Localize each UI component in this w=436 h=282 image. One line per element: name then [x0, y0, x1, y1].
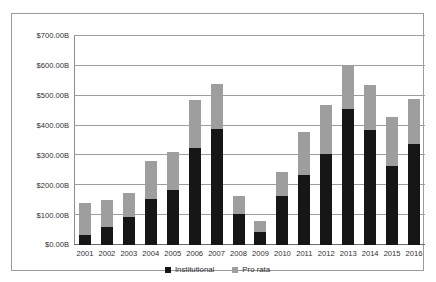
bar-slot: 2006 — [184, 36, 206, 245]
stacked-bar[interactable] — [342, 66, 354, 245]
bar-slot: 2009 — [250, 36, 272, 245]
x-axis-tick-label: 2006 — [186, 250, 203, 258]
bar-segment-pro-rata[interactable] — [101, 200, 113, 227]
bar-segment-pro-rata[interactable] — [298, 132, 310, 175]
bar-slot: 2011 — [293, 36, 315, 245]
stacked-bar[interactable] — [233, 196, 245, 245]
bar-slot: 2013 — [337, 36, 359, 245]
x-axis-tick-label: 2005 — [164, 250, 181, 258]
bar-group: 2001200220032004200520062007200820092010… — [74, 36, 425, 245]
bar-segment-institutional[interactable] — [276, 196, 288, 245]
bar-segment-pro-rata[interactable] — [276, 172, 288, 196]
bar-segment-institutional[interactable] — [211, 129, 223, 245]
legend-item-label: Institutional — [175, 265, 214, 274]
bar-segment-pro-rata[interactable] — [408, 99, 420, 144]
x-axis-tick-label: 2001 — [77, 250, 94, 258]
bar-slot: 2001 — [74, 36, 96, 245]
stacked-bar[interactable] — [145, 161, 157, 245]
bar-segment-pro-rata[interactable] — [233, 196, 245, 214]
stacked-bar[interactable] — [320, 105, 332, 245]
stacked-bar[interactable] — [79, 203, 91, 245]
legend-item[interactable]: Pro rata — [232, 265, 270, 274]
bar-segment-institutional[interactable] — [123, 217, 135, 245]
bar-slot: 2015 — [381, 36, 403, 245]
bar-segment-pro-rata[interactable] — [386, 117, 398, 166]
x-axis-tick-label: 2002 — [98, 250, 115, 258]
x-axis-tick-label: 2008 — [230, 250, 247, 258]
plot-area: $0.00B$100.00B$200.00B$300.00B$400.00B$5… — [74, 36, 425, 245]
y-axis-tick-label: $700.00B — [36, 32, 69, 40]
stacked-bar[interactable] — [211, 84, 223, 245]
bar-slot: 2007 — [206, 36, 228, 245]
x-axis-tick-label: 2016 — [406, 250, 423, 258]
bar-segment-pro-rata[interactable] — [79, 203, 91, 234]
x-axis-tick-label: 2014 — [362, 250, 379, 258]
chart-legend: InstitutionalPro rata — [12, 265, 423, 274]
stacked-bar[interactable] — [123, 193, 135, 245]
bar-segment-institutional[interactable] — [320, 154, 332, 245]
bar-segment-institutional[interactable] — [342, 109, 354, 245]
stacked-bar[interactable] — [298, 132, 310, 245]
bar-slot: 2008 — [228, 36, 250, 245]
bar-segment-pro-rata[interactable] — [364, 85, 376, 130]
x-axis-tick-label: 2011 — [296, 250, 312, 258]
y-axis-tick-label: $400.00B — [36, 122, 69, 130]
bar-segment-institutional[interactable] — [386, 166, 398, 245]
stacked-bar[interactable] — [101, 200, 113, 245]
bar-slot: 2005 — [162, 36, 184, 245]
stacked-bar[interactable] — [364, 85, 376, 245]
bar-slot: 2014 — [359, 36, 381, 245]
bar-segment-pro-rata[interactable] — [211, 84, 223, 129]
stacked-bar[interactable] — [254, 221, 266, 245]
x-axis-tick-label: 2003 — [120, 250, 137, 258]
bar-segment-institutional[interactable] — [298, 175, 310, 245]
y-axis-tick-label: $200.00B — [36, 182, 69, 190]
square-swatch-icon — [232, 267, 238, 273]
square-swatch-icon — [165, 267, 171, 273]
stacked-bar[interactable] — [408, 99, 420, 245]
x-axis-tick-label: 2013 — [340, 250, 357, 258]
stacked-bar[interactable] — [276, 172, 288, 245]
stacked-bar[interactable] — [167, 152, 179, 245]
x-axis-tick-label: 2009 — [252, 250, 269, 258]
bar-segment-institutional[interactable] — [364, 130, 376, 245]
bar-segment-pro-rata[interactable] — [189, 100, 201, 148]
bar-segment-pro-rata[interactable] — [167, 152, 179, 189]
bar-slot: 2003 — [118, 36, 140, 245]
bar-slot: 2004 — [140, 36, 162, 245]
bar-segment-institutional[interactable] — [79, 235, 91, 245]
bar-slot: 2016 — [403, 36, 425, 245]
bar-segment-pro-rata[interactable] — [123, 193, 135, 217]
y-axis-tick-label: $500.00B — [36, 92, 69, 100]
bar-segment-institutional[interactable] — [408, 144, 420, 246]
x-axis-tick-label: 2007 — [208, 250, 225, 258]
bar-segment-institutional[interactable] — [254, 232, 266, 245]
x-axis-tick-label: 2015 — [384, 250, 401, 258]
bar-segment-pro-rata[interactable] — [254, 221, 266, 231]
y-axis-tick-label: $600.00B — [36, 62, 69, 70]
bar-segment-pro-rata[interactable] — [342, 66, 354, 109]
bar-segment-pro-rata[interactable] — [145, 161, 157, 198]
x-axis-tick-label: 2012 — [318, 250, 335, 258]
y-axis-tick-label: $0.00B — [45, 241, 69, 249]
chart-frame: $0.00B$100.00B$200.00B$300.00B$400.00B$5… — [11, 13, 424, 271]
bar-slot: 2012 — [315, 36, 337, 245]
y-axis-tick-label: $100.00B — [36, 211, 69, 219]
bar-slot: 2002 — [96, 36, 118, 245]
legend-item[interactable]: Institutional — [165, 265, 214, 274]
bar-segment-institutional[interactable] — [233, 214, 245, 245]
stacked-bar[interactable] — [189, 100, 201, 245]
bar-segment-institutional[interactable] — [167, 190, 179, 245]
bar-slot: 2010 — [271, 36, 293, 245]
stacked-bar[interactable] — [386, 117, 398, 245]
legend-item-label: Pro rata — [242, 265, 270, 274]
bar-segment-pro-rata[interactable] — [320, 105, 332, 154]
x-axis-tick-label: 2010 — [274, 250, 291, 258]
bar-segment-institutional[interactable] — [145, 199, 157, 245]
bar-segment-institutional[interactable] — [189, 148, 201, 245]
x-axis-tick-label: 2004 — [142, 250, 159, 258]
bar-segment-institutional[interactable] — [101, 227, 113, 245]
y-axis-tick-label: $300.00B — [36, 152, 69, 160]
